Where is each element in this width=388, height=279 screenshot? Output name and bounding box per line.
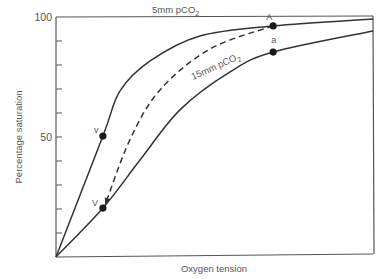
y-axis-label: Percentage saturation	[13, 91, 24, 184]
oxygen-dissociation-chart: 50100 vVAa 5mm pCO2 15mm pCO2 Oxygen ten…	[0, 0, 388, 279]
y-ticks	[56, 41, 62, 233]
series-line-2	[105, 26, 273, 205]
point-V	[99, 204, 106, 211]
point-a	[270, 48, 277, 55]
y-tick-labels: 50100	[34, 11, 52, 143]
point-v	[99, 132, 106, 139]
x-axis	[56, 254, 373, 257]
x-axis-label: Oxygen tension	[181, 263, 247, 274]
series-label-5mm: 5mm pCO2	[152, 4, 199, 17]
point-label-a: a	[271, 35, 276, 45]
point-A	[270, 22, 277, 29]
y-tick-label: 50	[40, 131, 52, 143]
point-label-v: v	[94, 125, 99, 135]
y-tick-label: 100	[34, 11, 52, 23]
right-frame	[373, 16, 374, 254]
point-label-A: A	[266, 12, 272, 22]
series-label-15mm: 15mm pCO2	[189, 50, 242, 83]
top-frame	[56, 16, 373, 17]
point-label-V: V	[92, 198, 98, 208]
